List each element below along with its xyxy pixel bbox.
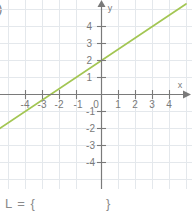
- x-tick-label-3: 3: [149, 99, 155, 110]
- x-axis-label: x: [178, 80, 183, 90]
- y-tick-label--2: -2: [86, 123, 95, 134]
- x-tick-label--1: -1: [74, 99, 83, 110]
- x-tick-label--3: -3: [38, 99, 47, 110]
- y-tick-label-1: 1: [86, 72, 92, 83]
- y-tick-label--1: -1: [86, 106, 95, 117]
- answer-row: L = { }: [0, 196, 192, 220]
- answer-set-suffix: }: [106, 196, 110, 211]
- coordinate-plot-svg: x y 0 -4 -3 -2 -1 1 2 3 4 4 3 2 1 -1 -2 …: [0, 0, 192, 190]
- x-tick-label-1: 1: [115, 99, 121, 110]
- x-tick-label-2: 2: [132, 99, 138, 110]
- x-tick-label--2: -2: [55, 99, 64, 110]
- x-tick-label-4: 4: [166, 99, 172, 110]
- y-tick-label--3: -3: [86, 140, 95, 151]
- y-axis-label: y: [108, 3, 113, 13]
- answer-set-prefix: L = {: [5, 196, 36, 211]
- y-tick-label--4: -4: [86, 157, 95, 168]
- y-tick-label-2: 2: [86, 55, 92, 66]
- y-tick-label-3: 3: [86, 38, 92, 49]
- y-tick-label-4: 4: [86, 21, 92, 32]
- y-axis-arrow: [98, 0, 106, 7]
- exercise-panel: ): [0, 0, 192, 220]
- coordinate-plot: x y 0 -4 -3 -2 -1 1 2 3 4 4 3 2 1 -1 -2 …: [0, 0, 192, 190]
- x-tick-label--4: -4: [21, 99, 30, 110]
